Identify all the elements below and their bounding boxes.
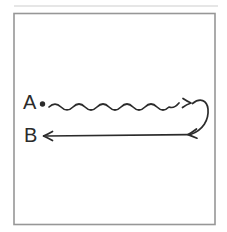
label-a: A xyxy=(23,91,37,113)
label-b: B xyxy=(24,124,37,146)
path-b-straight-line xyxy=(46,135,188,136)
u-turn-curve xyxy=(191,100,209,134)
figure-canvas: A B xyxy=(0,0,227,232)
path-diagram: A B xyxy=(0,0,227,232)
figure-frame xyxy=(14,14,215,225)
start-dot xyxy=(40,101,45,106)
arrowhead-right-icon xyxy=(183,99,192,108)
path-a-wavy-line xyxy=(49,103,179,110)
